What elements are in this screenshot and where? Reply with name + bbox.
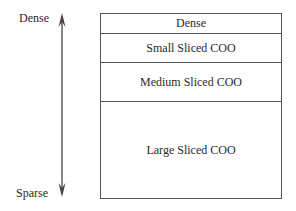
layer-small-sliced-coo: Small Sliced COO [101, 34, 281, 63]
layer-label: Dense [176, 16, 206, 31]
layer-large-sliced-coo: Large Sliced COO [101, 102, 281, 198]
layer-label: Medium Sliced COO [140, 75, 242, 90]
layer-label: Large Sliced COO [146, 143, 235, 158]
format-stack: Dense Small Sliced COO Medium Sliced COO… [100, 13, 282, 199]
layer-medium-sliced-coo: Medium Sliced COO [101, 63, 281, 102]
layer-dense: Dense [101, 14, 281, 34]
layer-label: Small Sliced COO [146, 41, 235, 56]
